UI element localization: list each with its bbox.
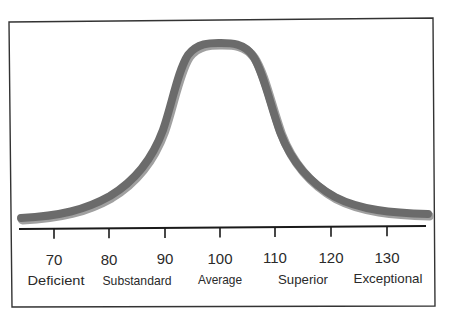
x-tick-label: 130	[374, 249, 399, 266]
x-tick-label: 100	[207, 250, 232, 267]
category-label-average: Average	[198, 272, 242, 287]
category-label-superior: Superior	[278, 272, 329, 287]
bell-curve-chart: 708090100110120130 DeficientSubstandardA…	[0, 0, 449, 317]
x-tick-label: 80	[101, 251, 118, 268]
category-label-exceptional: Exceptional	[354, 271, 423, 286]
x-tick-label: 90	[157, 250, 174, 267]
x-tick-label: 70	[46, 251, 63, 268]
x-tick-label: 110	[263, 249, 287, 266]
x-tick-label: 120	[318, 249, 343, 266]
category-label-substandard: Substandard	[103, 273, 172, 288]
category-label-deficient: Deficient	[28, 273, 85, 288]
